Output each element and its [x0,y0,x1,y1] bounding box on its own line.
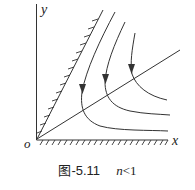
arrow-down-icon [128,64,135,74]
trajectory-3 [131,33,167,100]
condition-op: < [123,163,130,178]
trajectories [82,12,170,131]
x-axis-hatching [40,140,168,145]
trajectory-1 [82,12,168,131]
diagonal-boundary [37,10,103,139]
trajectory-2 [105,22,170,115]
figure-caption: 图-5.11 n<1 [0,160,195,179]
arrow-down-icon [79,84,86,94]
figure-id: 图-5.11 [58,163,100,178]
diagonal-hatching [37,19,98,133]
x-axis-label: x [171,133,179,148]
condition-val: 1 [130,163,137,178]
phase-diagram: y x o [0,0,195,150]
origin-label: o [24,136,31,150]
figure-condition: n<1 [116,163,136,178]
arrow-down-icon [102,74,109,84]
y-axis-label: y [39,2,48,17]
